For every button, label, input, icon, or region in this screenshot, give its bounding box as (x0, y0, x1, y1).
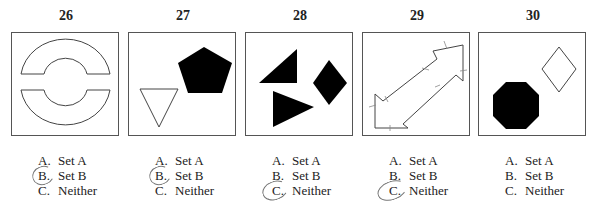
question-30: 30 A.Set A B.Set B C.Neither (478, 0, 588, 203)
option-b[interactable]: B.Set B (505, 168, 564, 183)
question-number: 27 (128, 8, 238, 24)
option-a[interactable]: A.Set A (389, 153, 448, 168)
figure-box (11, 32, 119, 136)
option-b[interactable]: B.Set B (38, 168, 97, 183)
answer-options: A.Set A B.Set B C.Neither (505, 153, 564, 198)
answer-options: A.Set A B.Set B C.Neither (155, 153, 214, 198)
answer-options: A.Set A B.Set B C.Neither (272, 153, 331, 198)
double-arrow-icon (363, 33, 471, 137)
figure-box (128, 32, 236, 136)
question-number: 28 (245, 8, 355, 24)
question-26: 26 A.Set A B.Set B C.Neither (11, 0, 121, 203)
option-c[interactable]: C.Neither (38, 183, 97, 198)
question-number: 26 (11, 8, 121, 24)
split-ring-icon (12, 33, 120, 137)
option-c[interactable]: C.Neither (389, 183, 448, 198)
question-number: 30 (478, 8, 588, 24)
option-a[interactable]: A.Set A (272, 153, 331, 168)
question-28: 28 A.Set A B.Set B C.Neither (245, 0, 355, 203)
question-number: 29 (362, 8, 472, 24)
figure-box (362, 32, 470, 136)
option-a[interactable]: A.Set A (505, 153, 564, 168)
question-29: 29 A.Set A B.Set B C.Neither (362, 0, 472, 203)
question-27: 27 A.Set A B.Set B C.Neither (128, 0, 238, 203)
option-b[interactable]: B.Set B (155, 168, 214, 183)
octagon-diamond-icon (479, 33, 587, 137)
option-c[interactable]: C.Neither (272, 183, 331, 198)
triangles-diamond-icon (246, 33, 354, 137)
answer-options: A.Set A B.Set B C.Neither (38, 153, 97, 198)
figure-box (245, 32, 353, 136)
pentagon-triangle-icon (129, 33, 237, 137)
option-c[interactable]: C.Neither (155, 183, 214, 198)
figure-box (478, 32, 586, 136)
option-c[interactable]: C.Neither (505, 183, 564, 198)
answer-options: A.Set A B.Set B C.Neither (389, 153, 448, 198)
